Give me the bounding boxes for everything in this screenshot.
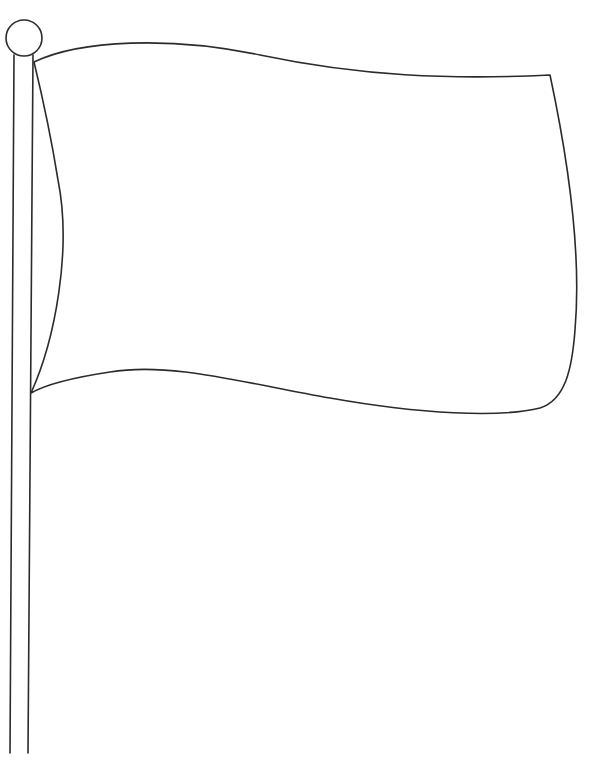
flagpole-right-edge [28,55,33,753]
flagpole-left-edge [10,55,14,753]
flag-drawing [0,0,609,764]
flag-cloth [31,43,577,414]
flagpole-finial [6,20,42,56]
